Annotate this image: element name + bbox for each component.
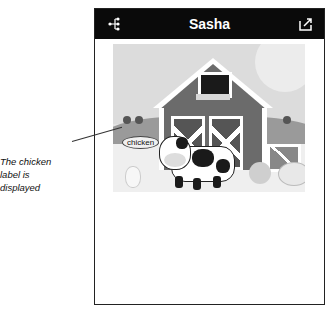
cow-leg bbox=[213, 176, 221, 188]
export-icon[interactable] bbox=[298, 16, 314, 32]
hay bbox=[196, 94, 230, 100]
navigation-bar: Sasha bbox=[95, 9, 324, 39]
annotation-callout: The chicken label is displayed bbox=[0, 155, 72, 194]
chicken-label: chicken bbox=[122, 136, 159, 149]
cow-leg bbox=[175, 176, 183, 188]
cow-leg bbox=[193, 178, 201, 190]
phone-frame: Sasha bbox=[94, 8, 325, 305]
share-network-icon[interactable] bbox=[107, 16, 123, 32]
tree bbox=[283, 116, 291, 124]
sheep[interactable] bbox=[278, 162, 305, 186]
pig[interactable] bbox=[249, 162, 271, 184]
tree bbox=[135, 116, 143, 124]
farm-scene[interactable] bbox=[113, 44, 305, 192]
chicken[interactable] bbox=[125, 166, 141, 188]
cow-head[interactable] bbox=[159, 136, 191, 170]
page-title: Sasha bbox=[189, 16, 230, 32]
tree bbox=[123, 116, 131, 124]
